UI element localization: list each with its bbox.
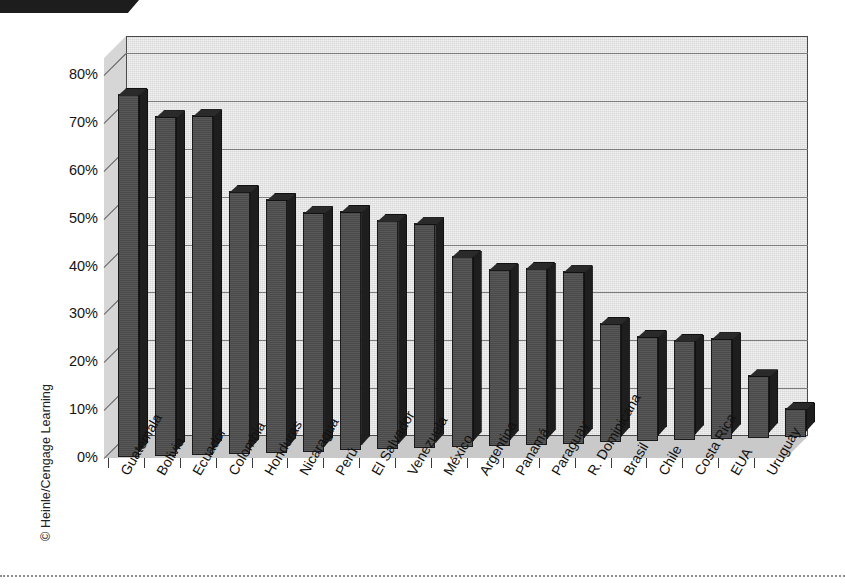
y-axis-tick-label: 30% xyxy=(32,305,98,321)
bottom-divider xyxy=(0,575,845,577)
bar-front-face xyxy=(155,116,176,456)
bar-el-salvador xyxy=(377,220,398,450)
bar-per- xyxy=(340,211,361,450)
bar-side-face xyxy=(510,264,519,441)
bar-side-face xyxy=(473,251,482,443)
bar-ecuador xyxy=(192,115,213,455)
x-axis-tick xyxy=(252,458,253,468)
bar-colombia xyxy=(229,191,250,454)
bar-m-xico xyxy=(452,256,473,448)
bar-front-face xyxy=(229,191,250,454)
x-axis-tick xyxy=(682,458,683,468)
bar-side-face xyxy=(547,263,556,440)
bar-front-face xyxy=(266,199,287,453)
bar-side-face xyxy=(435,218,444,443)
x-axis-tick xyxy=(539,458,540,468)
x-axis-tick xyxy=(431,458,432,468)
bar-side-face xyxy=(695,335,704,436)
bar-front-face xyxy=(340,211,361,450)
bar-side-face xyxy=(287,194,296,448)
bar-honduras xyxy=(266,199,287,453)
gridline xyxy=(126,149,808,150)
y-axis-tick-label: 20% xyxy=(32,353,98,369)
bar-brasil xyxy=(637,336,658,441)
x-axis-tick xyxy=(216,458,217,468)
x-axis-tick xyxy=(503,458,504,468)
bar-front-face xyxy=(748,375,769,437)
x-axis-tick xyxy=(144,458,145,468)
bar-panam- xyxy=(526,268,547,445)
bar-front-face xyxy=(303,212,324,451)
bar-side-face xyxy=(250,186,259,449)
bar-paraguay xyxy=(563,271,584,443)
x-axis-tick xyxy=(611,458,612,468)
y-axis-tick-label: 50% xyxy=(32,210,98,226)
x-axis-tick xyxy=(718,458,719,468)
x-axis-tick xyxy=(359,458,360,468)
y-axis-tick-label: 10% xyxy=(32,401,98,417)
bar-side-face xyxy=(584,266,593,438)
y-axis-tick-label: 40% xyxy=(32,258,98,274)
bar-eua xyxy=(748,375,769,437)
chart-page: © Heinle/Cengage Learning 0%10%20%30%40%… xyxy=(0,0,845,585)
bar-side-face xyxy=(361,206,370,445)
bar-side-face xyxy=(139,89,148,453)
bar-side-face xyxy=(213,110,222,450)
x-axis-tick xyxy=(395,458,396,468)
bar-front-face xyxy=(377,220,398,450)
bar-nicaragua xyxy=(303,212,324,451)
bar-front-face xyxy=(414,223,435,448)
bar-front-face xyxy=(563,271,584,443)
bar-side-face xyxy=(658,331,667,436)
bar-venezuela xyxy=(414,223,435,448)
x-axis-tick xyxy=(575,458,576,468)
gridline xyxy=(126,53,808,54)
x-axis-tick xyxy=(180,458,181,468)
x-axis-tick xyxy=(754,458,755,468)
x-axis-tick xyxy=(467,458,468,468)
bar-side-face xyxy=(324,207,333,446)
bar-side-face xyxy=(176,111,185,451)
x-axis-tick xyxy=(323,458,324,468)
bar-front-face xyxy=(526,268,547,445)
bar-front-face xyxy=(452,256,473,448)
bar-guatemala xyxy=(118,94,139,458)
bar-front-face xyxy=(637,336,658,441)
bar-side-face xyxy=(769,370,778,432)
y-axis-tick-label: 80% xyxy=(32,66,98,82)
x-axis-tick xyxy=(287,458,288,468)
y-axis-tick-label: 60% xyxy=(32,162,98,178)
y-axis-tick-label: 0% xyxy=(32,449,98,465)
bar-bolivia xyxy=(155,116,176,456)
bar-front-face xyxy=(674,340,695,441)
gridline xyxy=(126,101,808,102)
bar-front-face xyxy=(192,115,213,455)
bar-front-face xyxy=(118,94,139,458)
y-axis-tick-label: 70% xyxy=(32,114,98,130)
x-axis-tick xyxy=(646,458,647,468)
x-axis-tick xyxy=(108,458,109,468)
bar-chart: 0%10%20%30%40%50%60%70%80% GuatemalaBoli… xyxy=(0,0,845,585)
bar-chile xyxy=(674,340,695,441)
